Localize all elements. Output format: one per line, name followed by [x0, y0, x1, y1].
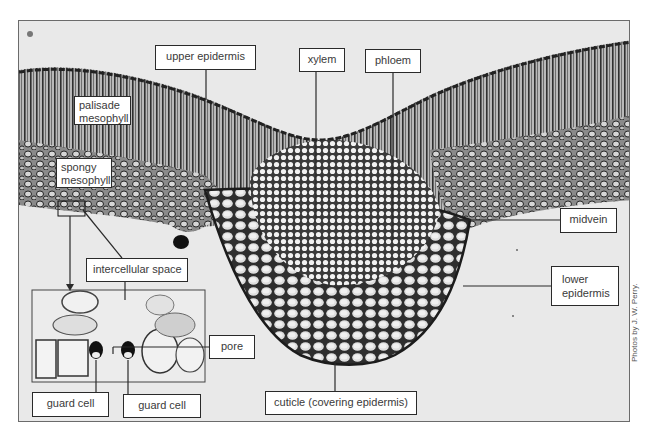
label-text: mesophyll	[79, 112, 126, 125]
label-text: lower	[562, 272, 608, 286]
label-text: pore	[221, 340, 243, 352]
label-xylem: xylem	[299, 48, 345, 72]
label-phloem: phloem	[365, 49, 421, 73]
label-text: midvein	[570, 213, 608, 225]
label-cuticle: cuticle (covering epidermis)	[265, 391, 417, 415]
label-text: cuticle (covering epidermis)	[274, 396, 408, 408]
label-palisade-mesophyll: palisade mesophyll	[74, 96, 131, 125]
label-upper-epidermis: upper epidermis	[155, 45, 256, 70]
label-spongy-mesophyll: spongy mesophyll	[56, 158, 112, 188]
label-text: xylem	[308, 53, 337, 65]
stoma-inset	[32, 290, 205, 382]
label-text: spongy	[61, 161, 107, 174]
label-text: epidermis	[562, 286, 608, 300]
label-text: mesophyll	[61, 174, 107, 187]
label-text: guard cell	[47, 397, 95, 409]
label-intercellular-space: intercellular space	[86, 258, 188, 282]
label-text: phloem	[375, 54, 411, 66]
label-text: intercellular space	[93, 263, 182, 275]
label-text: guard cell	[138, 399, 186, 411]
leaf-cross-section-figure: upper epidermis xylem phloem palisade me…	[0, 0, 656, 435]
label-lower-epidermis: lower epidermis	[551, 266, 619, 306]
label-midvein: midvein	[560, 208, 617, 233]
label-guard-cell-right: guard cell	[123, 394, 201, 418]
label-pore: pore	[209, 335, 255, 359]
photo-credit: Photos by J. W. Perry.	[630, 283, 639, 362]
label-guard-cell-left: guard cell	[32, 392, 109, 417]
label-text: upper epidermis	[166, 50, 245, 62]
label-text: palisade	[79, 99, 126, 112]
